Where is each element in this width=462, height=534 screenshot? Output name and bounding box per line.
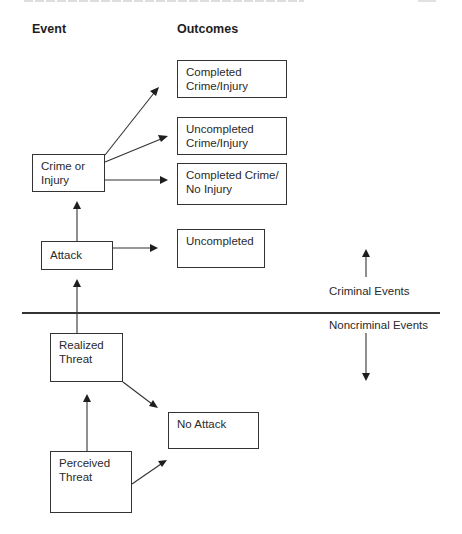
event-label-line2: Injury (41, 173, 104, 187)
event-realized-threat: Realized Threat (50, 333, 123, 382)
outcome-completed-crime-no-injury: Completed Crime/ No Injury (177, 163, 287, 205)
arrow-criminal-events-up (362, 249, 370, 277)
arrow-attack-to-uncompleted (113, 244, 158, 252)
outcome-label-line2: No Injury (186, 182, 286, 196)
outcome-label-line1: Uncompleted (186, 234, 264, 248)
outcome-no-attack: No Attack (168, 412, 259, 449)
event-label-line1: Realized (59, 338, 122, 352)
event-label-line2: Threat (59, 470, 131, 484)
arrow-crime-to-uncompleted-crime-injury (105, 135, 168, 162)
clipped-page-number (418, 0, 436, 2)
outcome-label-line1: No Attack (177, 417, 258, 431)
arrow-noncriminal-events-down (362, 333, 370, 381)
event-attack: Attack (41, 241, 113, 270)
outcome-label-line1: Completed (186, 65, 286, 79)
outcome-label-line2: Crime/Injury (186, 79, 286, 93)
criminal-events-label: Criminal Events (329, 284, 410, 298)
event-label-line1: Attack (50, 248, 112, 262)
event-column-heading: Event (32, 22, 66, 36)
outcome-completed-crime-injury: Completed Crime/Injury (177, 60, 287, 98)
event-label-line1: Perceived (59, 456, 131, 470)
arrow-perceived-to-no-attack (132, 460, 167, 484)
event-perceived-threat: Perceived Threat (50, 451, 132, 513)
arrow-crime-to-completed-crime-injury (105, 87, 159, 155)
outcome-uncompleted: Uncompleted (177, 229, 265, 268)
arrow-crime-to-completed-no-injury (105, 176, 168, 184)
clipped-running-header (24, 0, 304, 2)
arrow-realized-to-attack (73, 279, 81, 333)
arrow-realized-to-no-attack (123, 382, 158, 408)
outcome-label-line2: Crime/Injury (186, 136, 286, 150)
outcome-uncompleted-crime-injury: Uncompleted Crime/Injury (177, 117, 287, 155)
outcome-label-line1: Uncompleted (186, 122, 286, 136)
event-label-line1: Crime or (41, 159, 104, 173)
arrow-perceived-to-realized (83, 394, 91, 451)
arrow-attack-to-crime (73, 201, 81, 241)
outcome-label-line1: Completed Crime/ (186, 168, 286, 182)
outcomes-column-heading: Outcomes (177, 22, 238, 36)
event-label-line2: Threat (59, 352, 122, 366)
event-crime-or-injury: Crime or Injury (32, 154, 105, 192)
criminal-noncriminal-divider (22, 312, 440, 314)
noncriminal-events-label: Noncriminal Events (329, 318, 428, 332)
